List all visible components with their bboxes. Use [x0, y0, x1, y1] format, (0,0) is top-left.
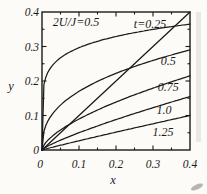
y-tick-label: 0.3	[25, 41, 40, 53]
x-tick-label: 0.2	[109, 158, 124, 170]
figure-panel: t=0.250.50.751.01.2500.10.20.30.400.10.2…	[0, 0, 207, 194]
plot-svg: t=0.250.50.751.01.2500.10.20.30.400.10.2…	[0, 0, 207, 194]
y-tick-label: 0.4	[25, 6, 40, 18]
y-tick-label: 0	[33, 144, 39, 156]
curve-label-t=0.75: 0.75	[158, 80, 179, 94]
x-axis-label: x	[109, 173, 116, 187]
scan-artifact	[190, 182, 204, 192]
x-tick-label: 0.3	[146, 158, 161, 170]
curve-label-t=0.25: t=0.25	[134, 17, 166, 31]
parameter-annotation: 2U/J=0.5	[53, 15, 99, 29]
x-tick-label: 0	[37, 158, 43, 170]
curve-label-t=1.25: 1.25	[152, 125, 173, 139]
x-tick-label: 0.4	[183, 158, 198, 170]
curve-label-t=0.5: 0.5	[161, 54, 176, 68]
curve-label-t=1.0: 1.0	[157, 103, 172, 117]
y-tick-label: 0.1	[25, 110, 39, 122]
y-tick-label: 0.2	[25, 75, 40, 87]
scan-artifact	[196, 12, 201, 142]
y-axis-label: y	[6, 79, 14, 93]
x-tick-label: 0.1	[72, 158, 86, 170]
